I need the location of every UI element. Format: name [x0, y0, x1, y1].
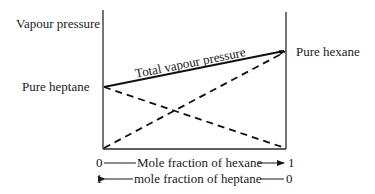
hexane-fraction-label: Mole fraction of hexane [137, 155, 262, 170]
y-axis-label: Vapour pressure [16, 16, 100, 31]
hexane-fraction-end: 1 [288, 155, 295, 170]
heptane-fraction-start: 1 [96, 171, 103, 186]
pure-hexane-label: Pure hexane [296, 44, 360, 59]
pure-heptane-label: Pure heptane [22, 79, 90, 94]
hexane-fraction-start: 0 [96, 155, 103, 170]
heptane-fraction-label: mole fraction of heptane [134, 171, 262, 186]
heptane-partial-pressure-line [104, 87, 285, 148]
heptane-fraction-end: 0 [286, 171, 293, 186]
vapour-pressure-diagram: Vapour pressure Pure heptane Pure hexane… [0, 0, 375, 194]
